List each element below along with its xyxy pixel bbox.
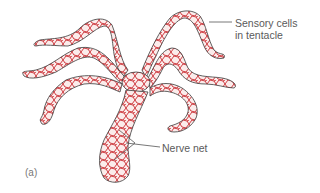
body-column — [100, 90, 149, 182]
label-nerve-net: Nerve net — [162, 142, 208, 154]
tentacle-lower-left — [40, 76, 122, 125]
tentacle-lower-right — [150, 84, 197, 133]
label-sensory-line-1: Sensory cells — [235, 17, 297, 29]
panel-label: (a) — [25, 167, 37, 179]
hypostome — [122, 72, 150, 92]
label-sensory-line-2: in tentacle — [235, 29, 297, 41]
label-sensory-cells: Sensory cells in tentacle — [235, 17, 297, 41]
hydra-body-group — [23, 11, 236, 182]
